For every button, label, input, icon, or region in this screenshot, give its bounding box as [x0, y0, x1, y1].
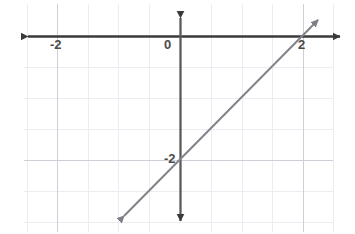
grid-lines-major — [24, 4, 333, 232]
grid-lines-horizontal — [24, 68, 333, 223]
line-y-equals-x-minus-2 — [124, 20, 318, 216]
graph-figure: -2 0 2 -2 — [0, 0, 355, 234]
y-tick-label-neg-two: -2 — [164, 152, 176, 165]
origin-label: 0 — [164, 38, 171, 51]
coordinate-plane-svg — [0, 0, 355, 234]
x-tick-label-neg-two: -2 — [50, 38, 62, 51]
plotted-line-series — [124, 20, 318, 216]
x-tick-label-pos-two: 2 — [298, 38, 305, 51]
axes — [28, 18, 340, 221]
